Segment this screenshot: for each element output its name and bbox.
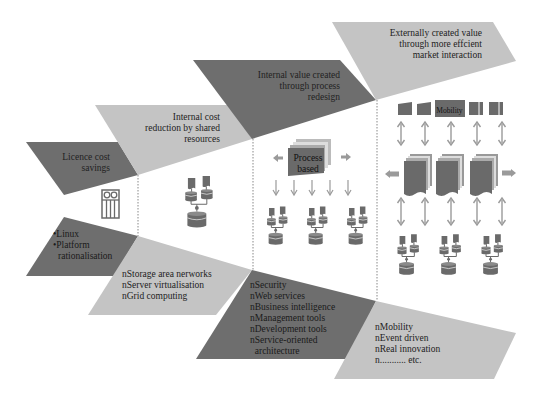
cylinder-top — [185, 191, 197, 194]
cylinder-bottom — [482, 252, 491, 254]
title-line: through process — [240, 81, 340, 92]
title-line: savings — [40, 163, 110, 174]
document-shape — [320, 206, 325, 214]
channel-box — [417, 102, 431, 115]
arrow-right-icon — [341, 153, 351, 161]
bidirectional-arrow-icon — [499, 122, 506, 145]
cylinder-top — [399, 262, 414, 266]
document-shape — [360, 206, 365, 214]
shared-database-cluster-icon — [185, 176, 212, 228]
market-database-cluster-icon — [482, 234, 503, 274]
value-evolution-diagram: Licence cost savings Internal cost reduc… — [0, 0, 543, 393]
document-shape — [203, 176, 210, 187]
list-item: nSecurity — [250, 280, 335, 291]
document-shape — [442, 236, 448, 245]
cylinder-bottom — [187, 223, 206, 228]
list-item: n........... etc. — [375, 355, 440, 366]
list-item: nBusiness intelligence — [250, 302, 335, 313]
document-shape — [453, 234, 459, 243]
arrow-right-icon — [502, 169, 516, 177]
cylinder-top — [440, 246, 449, 248]
list-external: nMobility nEvent driven nReal innovation… — [375, 322, 440, 366]
process-box-label: Process based — [291, 153, 325, 175]
document-stack-icon — [470, 154, 498, 196]
document-shape — [309, 208, 314, 216]
document-stack-icon — [404, 154, 432, 196]
title-line: Licence cost — [40, 152, 110, 163]
cylinder-top — [349, 233, 363, 236]
arrow-right — [502, 169, 516, 177]
channel-box — [469, 102, 483, 115]
cylinder-top — [319, 216, 328, 218]
arrow-right — [341, 153, 351, 161]
cylinder-bottom — [494, 250, 503, 252]
title-line: Internal value created — [240, 70, 340, 81]
arrow-down-icon — [273, 180, 279, 195]
title-line: reduction by shared — [120, 123, 220, 134]
cylinder-bottom — [309, 241, 323, 244]
bidirectional-arrow-icon — [422, 122, 429, 145]
process-database-cluster-icon — [347, 206, 367, 244]
title-line: market interaction — [370, 50, 482, 61]
list-item: •Platform — [53, 240, 112, 251]
process-database-cluster-icon — [307, 206, 327, 244]
market-database-cluster-icon — [398, 234, 419, 274]
junction — [314, 229, 317, 232]
cylinder-top — [201, 189, 213, 192]
list-shared: nStorage area nerworks nServer virtualis… — [122, 269, 212, 302]
cylinder-top — [279, 216, 288, 218]
process-database-cluster-icon — [267, 206, 287, 244]
bidirectional-arrow-icon — [474, 122, 481, 145]
cylinder-bottom — [398, 252, 407, 254]
list-item: nEvent driven — [375, 333, 440, 344]
cylinder-top — [359, 216, 368, 218]
cylinder-bottom — [410, 250, 419, 252]
bidirectional-arrow-icon — [499, 198, 506, 225]
arrow-left-icon — [273, 154, 283, 162]
cylinder-top — [452, 245, 461, 247]
list-item: nGrid computing — [122, 291, 212, 302]
cylinder-bottom — [279, 222, 288, 224]
cylinder-bottom — [399, 271, 414, 275]
arrow-left-icon — [385, 170, 399, 178]
list-item: •Linux — [53, 229, 112, 240]
junction — [447, 258, 450, 261]
document-shape — [280, 206, 285, 214]
junction — [195, 206, 199, 210]
server-rack-icon — [102, 190, 119, 218]
junction — [274, 229, 277, 232]
document-shape — [470, 161, 492, 196]
arrow-down-icon — [345, 180, 351, 195]
cylinder-bottom — [269, 241, 283, 244]
cylinder-top — [347, 218, 356, 220]
cylinder-bottom — [440, 252, 449, 254]
list-item: nServer virtualisation — [122, 280, 212, 291]
list-item: nManagement tools — [250, 313, 335, 324]
title-line: redesign — [240, 92, 340, 103]
list-licence: •Linux •Platform rationalisation — [53, 229, 112, 262]
cylinder-top — [494, 245, 503, 247]
document-shape — [400, 236, 406, 245]
list-item: nWeb services — [250, 291, 335, 302]
title-line: through more effcient — [370, 39, 482, 50]
document-shape — [349, 208, 354, 216]
list-item: architecture — [250, 346, 335, 357]
cylinder-bottom — [201, 197, 213, 200]
document-shape — [495, 234, 501, 243]
document-shape — [188, 178, 195, 189]
document-shape — [404, 161, 426, 196]
cylinder-bottom — [319, 222, 328, 224]
cylinder-bottom — [349, 241, 363, 244]
arrow-down-icon — [327, 180, 333, 195]
list-item: rationalisation — [53, 251, 112, 262]
market-database-cluster-icon — [440, 234, 461, 274]
list-item: nMobility — [375, 322, 440, 333]
cylinder-top — [482, 246, 491, 248]
bidirectional-arrow-icon — [448, 198, 455, 225]
cylinder-top — [398, 246, 407, 248]
title-line: Externally created value — [370, 28, 482, 39]
cylinder-bottom — [307, 223, 316, 225]
process-box-line: based — [291, 164, 325, 175]
list-item: nStorage area nerworks — [122, 269, 212, 280]
title-process: Internal value created through process r… — [240, 70, 340, 103]
